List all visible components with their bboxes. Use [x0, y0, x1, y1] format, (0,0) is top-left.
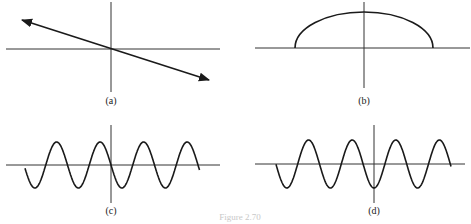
panel-label-a: (a) — [105, 95, 116, 107]
panel-d: (d) — [255, 125, 465, 217]
panel-c: (c) — [6, 125, 220, 217]
panel-a: (a) — [6, 2, 220, 107]
panel-label-c: (c) — [105, 205, 116, 217]
figure-canvas: (a) (b) (c) (d) Figure 2.70 — [0, 0, 471, 224]
panel-b: (b) — [255, 2, 470, 107]
figure-caption: Figure 2.70 — [219, 212, 261, 222]
panel-label-b: (b) — [358, 95, 370, 107]
panel-label-d: (d) — [368, 205, 380, 217]
linear-line-a — [22, 20, 209, 80]
